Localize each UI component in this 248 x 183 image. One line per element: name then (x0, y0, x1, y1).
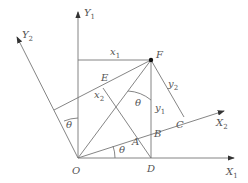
label-theta-mid: θ (135, 98, 141, 108)
label-Y1: Y1 (84, 8, 95, 21)
theta-arc-bottom (113, 146, 115, 158)
label-x2: x2 (94, 90, 104, 103)
label-theta-left: θ (66, 120, 72, 130)
point-F-marker (149, 58, 153, 62)
label-theta-bottom: θ (119, 145, 125, 155)
label-Y2: Y2 (22, 30, 33, 43)
label-F: F (156, 50, 163, 60)
segment-FO (78, 60, 151, 158)
label-X1: X1 (226, 167, 238, 180)
label-D: D (147, 164, 155, 174)
diagram-lines (0, 0, 248, 183)
label-A: A (132, 137, 139, 147)
label-y1: y1 (155, 103, 165, 116)
coordinate-rotation-diagram: Y1 Y2 X2 X1 F E B C A O D x1 x2 y1 y2 θ … (0, 0, 248, 183)
label-y2: y2 (168, 79, 178, 92)
y2-axis (17, 37, 78, 158)
label-E: E (101, 73, 108, 83)
label-C: C (176, 120, 184, 130)
label-O: O (72, 166, 80, 176)
label-X2: X2 (216, 118, 228, 131)
label-x1: x1 (110, 47, 120, 60)
label-B: B (154, 129, 161, 139)
